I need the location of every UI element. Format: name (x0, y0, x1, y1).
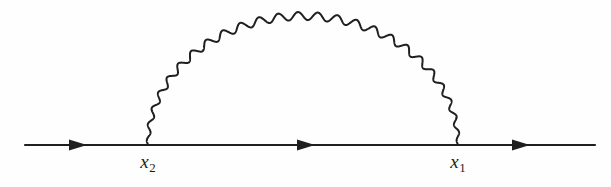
photon-line-group (147, 12, 459, 145)
label-x2: x2 (140, 152, 155, 175)
label-x1-subscript: 1 (459, 160, 465, 175)
label-x1-base: x (450, 151, 458, 172)
fermion-line-group (25, 140, 595, 151)
arrowhead-right (512, 140, 530, 151)
diagram-canvas (0, 0, 611, 187)
label-x2-base: x (140, 151, 148, 172)
feynman-diagram-figure: x2 x1 (0, 0, 611, 187)
label-x1: x1 (450, 152, 465, 175)
photon-propagator-wavy-arc (147, 12, 459, 145)
label-x2-subscript: 2 (149, 160, 155, 175)
arrowhead-middle (297, 140, 315, 151)
arrowhead-left (69, 140, 87, 151)
